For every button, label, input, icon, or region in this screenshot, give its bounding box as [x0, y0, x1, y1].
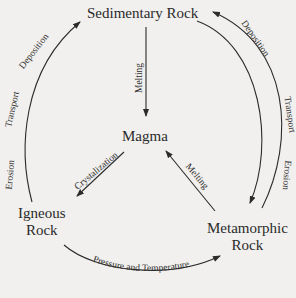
arrow-sed-to-meta [197, 21, 262, 203]
label-pressure-temperature: Pressure and Temperature [92, 254, 190, 273]
label-transport-left: Transport [3, 90, 21, 128]
igneous-line-1: Igneous [18, 205, 66, 222]
metamorphic-line-1: Metamorphic [207, 220, 288, 237]
label-crystalization: Crystalization [72, 150, 119, 192]
label-erosion-left: Erosion [4, 159, 17, 190]
node-sedimentary-rock: Sedimentary Rock [87, 5, 198, 22]
label-transport-right: Transport [282, 96, 296, 134]
label-erosion-right: Erosion [281, 160, 294, 191]
igneous-line-2: Rock [18, 222, 66, 239]
label-melting-meta: Melting [184, 161, 211, 191]
label-melting-sed: Melting [134, 63, 144, 93]
node-metamorphic-rock: Metamorphic Rock [207, 220, 288, 254]
arrow-meta-to-sed [213, 12, 282, 208]
label-deposition-right: Deposition [239, 18, 271, 58]
node-magma: Magma [122, 128, 168, 145]
metamorphic-line-2: Rock [207, 237, 288, 254]
node-igneous-rock: Igneous Rock [18, 205, 66, 239]
